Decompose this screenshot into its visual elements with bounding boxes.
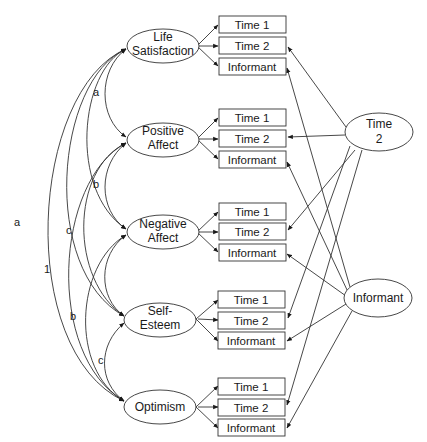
indicator-ls-time1: Time 1 [235, 19, 270, 31]
factor-life-satisfaction: Life Satisfaction [127, 29, 199, 63]
cov-ls-pa [105, 49, 126, 137]
indicator-se-time1: Time 1 [234, 294, 269, 306]
indicator-pa-informant: Informant [228, 154, 277, 166]
indicator-na-time1: Time 1 [235, 206, 270, 218]
factor-label: Positive [142, 124, 184, 138]
factor-label: Informant [353, 291, 404, 305]
factor-label: Affect [148, 231, 179, 245]
indicator-ls-informant: Informant [228, 61, 277, 73]
factor-label: Life [153, 30, 173, 44]
factor-optimism: Optimism [124, 390, 196, 424]
cov-ls-na [87, 49, 126, 229]
factor-label: Satisfaction [132, 44, 194, 58]
edge-label-se-op: c [98, 354, 104, 366]
indicator-se-time2: Time 2 [234, 315, 269, 327]
factor-label: Optimism [135, 400, 186, 414]
indicator-ls-time2: Time 2 [235, 40, 270, 52]
indicator-na-informant: Informant [228, 247, 277, 259]
indicator-pa-time2: Time 2 [235, 133, 270, 145]
factor-label: Esteem [140, 318, 181, 332]
cov-na-se [105, 235, 126, 316]
method-factor-time2: Time 2 [345, 113, 413, 151]
indicator-op-time2: Time 2 [234, 402, 269, 414]
factor-negative-affect: Negative Affect [127, 215, 199, 249]
cov-ls-op [48, 49, 126, 401]
indicator-op-time1: Time 1 [234, 381, 269, 393]
indicator-se-informant: Informant [227, 335, 276, 347]
edge-label-ls-se: 1 [44, 263, 50, 275]
sem-diagram: a b a c 1 b c [0, 0, 427, 442]
indicator-na-time2: Time 2 [235, 226, 270, 238]
factor-positive-affect: Positive Affect [127, 123, 199, 157]
edge-label-na-op: b [70, 310, 76, 322]
indicator-pa-time1: Time 1 [235, 112, 270, 124]
factor-label: Affect [148, 138, 179, 152]
edge-label-ls-op: a [14, 216, 21, 228]
method-factor-informant: Informant [344, 279, 412, 317]
cov-se-op [105, 323, 125, 401]
factor-label: Time [366, 117, 393, 131]
edge-label-pa-op: c [66, 224, 72, 236]
indicator-op-informant: Informant [227, 422, 276, 434]
factor-label: Negative [139, 217, 187, 231]
factor-label: Self- [148, 304, 173, 318]
factor-label: 2 [376, 132, 383, 146]
factor-self-esteem: Self- Esteem [124, 303, 196, 337]
edge-label-ls-pa: a [93, 86, 100, 98]
edge-label-pa-na: b [93, 178, 99, 190]
